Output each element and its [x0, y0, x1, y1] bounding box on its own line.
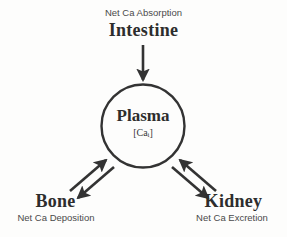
- calcium-homeostasis-diagram: Net Ca Absorption Intestine Plasma [Cai]…: [0, 0, 287, 237]
- plasma-value-close: ]: [150, 127, 153, 138]
- plasma-label: Plasma: [101, 107, 185, 124]
- arrow-kidney-to-plasma: [180, 160, 216, 191]
- bone-caption: Net Ca Deposition: [0, 213, 112, 223]
- intestine-caption: Net Ca Absorption: [0, 8, 287, 18]
- bone-label: Bone: [8, 192, 103, 210]
- intestine-label: Intestine: [0, 21, 287, 39]
- arrow-bone-to-plasma: [70, 160, 106, 191]
- plasma-value-open: [Ca: [133, 127, 147, 138]
- kidney-label: Kidney: [186, 192, 281, 210]
- plasma-calcium-value: [Cai]: [101, 128, 185, 139]
- kidney-caption: Net Ca Excretion: [176, 213, 287, 223]
- plasma-circle: [102, 85, 185, 168]
